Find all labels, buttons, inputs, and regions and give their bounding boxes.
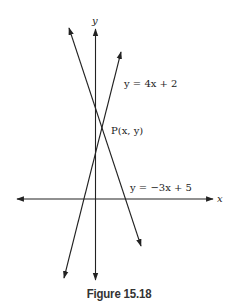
point-label: P(x, y)	[111, 125, 143, 136]
figure-diagram: y x y = 4x + 2 P(x, y) y = −3x + 5	[0, 0, 238, 308]
equation-4x-plus-2: y = 4x + 2	[123, 78, 178, 89]
line-4x-plus-2	[64, 52, 121, 278]
y-axis-label: y	[91, 15, 98, 26]
x-axis-label: x	[217, 193, 223, 204]
equation-neg3x-plus-5: y = −3x + 5	[129, 182, 192, 193]
figure-caption: Figure 15.18	[14, 286, 223, 301]
